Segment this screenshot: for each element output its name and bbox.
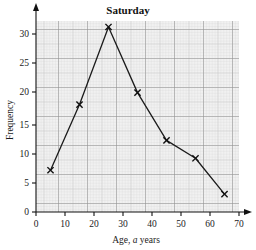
x-axis-title-pre: Age, [112,235,133,245]
plot-area-background [36,7,239,213]
x-tick-label-0: 0 [34,219,39,229]
x-axis-ticks [36,212,239,216]
x-tick-label-70: 70 [234,219,244,229]
x-tick-label-10: 10 [60,219,70,229]
y-tick-label-30: 30 [20,29,30,39]
y-tick-label-15: 15 [20,120,30,130]
x-tick-label-20: 20 [89,219,99,229]
x-tick-label-30: 30 [118,219,128,229]
x-axis-title: Age, a years [112,235,160,245]
x-axis-title-post: years [137,235,160,245]
y-tick-label-20: 20 [20,87,30,97]
x-tick-label-40: 40 [147,219,157,229]
y-tick-label-0: 0 [24,207,29,217]
frequency-polygon-chart: Saturday 0 5 10 15 20 25 30 [0,0,256,250]
y-tick-label-10: 10 [20,149,30,159]
x-axis-arrow-icon [244,209,252,215]
y-axis-arrow-icon [33,3,39,11]
chart-canvas: Saturday 0 5 10 15 20 25 30 [0,0,256,250]
x-axis-tick-labels: 0 10 20 30 40 50 60 70 [34,219,244,229]
y-tick-label-5: 5 [24,178,29,188]
x-tick-label-60: 60 [205,219,215,229]
x-tick-label-50: 50 [176,219,186,229]
y-axis-tick-labels: 0 5 10 15 20 25 30 [20,29,30,217]
y-tick-label-25: 25 [20,58,30,68]
y-axis-ticks [32,34,36,212]
y-axis-title: Frequency [5,100,15,140]
chart-title: Saturday [106,4,150,16]
